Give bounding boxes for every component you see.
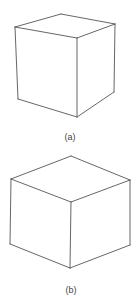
cube-edge bbox=[11, 179, 71, 202]
cube-edge bbox=[71, 180, 130, 202]
cube-b-drawing bbox=[10, 156, 130, 268]
cube-edge bbox=[114, 24, 115, 92]
figure-canvas bbox=[0, 0, 138, 307]
cube-edge bbox=[15, 27, 77, 38]
cube-edge bbox=[15, 14, 61, 27]
cube-edge bbox=[18, 99, 77, 117]
cube-a-drawing bbox=[15, 14, 115, 117]
cube-edge bbox=[11, 156, 71, 179]
cube-edge bbox=[70, 202, 71, 268]
cube-edge bbox=[70, 245, 130, 268]
cube-edge bbox=[15, 27, 18, 99]
cube-edge bbox=[10, 244, 70, 268]
cube-edge bbox=[77, 92, 114, 117]
panel-label-b: (b) bbox=[66, 286, 77, 295]
cube-edge bbox=[77, 24, 115, 38]
cube-edge bbox=[61, 14, 115, 24]
cube-edge bbox=[71, 156, 130, 180]
panel-label-a: (a) bbox=[65, 133, 76, 142]
cube-edge bbox=[10, 179, 11, 244]
